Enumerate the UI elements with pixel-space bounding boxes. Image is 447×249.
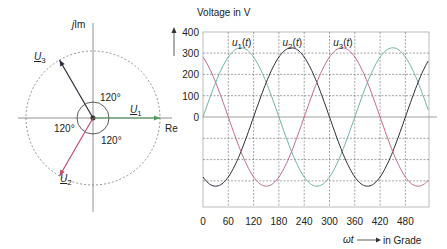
series-label-u1t: u1(t) bbox=[232, 37, 251, 51]
x-axis-title: ωt bbox=[343, 234, 355, 245]
y-tick-label: 400 bbox=[182, 27, 199, 38]
phasor-label-u3: U3 bbox=[34, 51, 46, 65]
arrowhead-icon bbox=[154, 116, 160, 121]
phasor-label-u1: U1 bbox=[130, 104, 142, 118]
angle-label-bottom: 120° bbox=[101, 135, 122, 146]
y-axis-arrowhead bbox=[172, 27, 177, 33]
y-tick-label: 300 bbox=[182, 48, 199, 59]
x-tick-label: 420 bbox=[372, 216, 389, 227]
y-tick-label: 0 bbox=[193, 112, 199, 123]
phasor-diagram: U1U2U3 jIm Re 120° 120° 120° bbox=[18, 19, 178, 212]
y-tick-label: 100 bbox=[182, 91, 199, 102]
x-axis-unit: in Grade bbox=[383, 235, 422, 246]
x-tick-label: 60 bbox=[223, 216, 235, 227]
series-label-u3t: u3(t) bbox=[333, 37, 352, 51]
phasor-label-u2: U2 bbox=[60, 173, 72, 187]
imag-axis-label: jIm bbox=[70, 19, 85, 30]
series-label-u2t: u2(t) bbox=[283, 37, 302, 51]
x-tick-label: 300 bbox=[321, 216, 338, 227]
x-tick-label: 180 bbox=[271, 216, 288, 227]
x-tick-label: 0 bbox=[200, 216, 206, 227]
phasor-u3 bbox=[60, 60, 94, 118]
angle-label-top: 120° bbox=[100, 92, 121, 103]
y-axis-title: Voltage in V bbox=[197, 7, 251, 18]
real-axis-label: Re bbox=[165, 123, 178, 134]
voltage-chart: Voltage in V 400300200100006012018024030… bbox=[172, 7, 438, 246]
x-tick-label: 120 bbox=[245, 216, 262, 227]
x-tick-label: 240 bbox=[296, 216, 313, 227]
figure: U1U2U3 jIm Re 120° 120° 120° Voltage in … bbox=[0, 0, 447, 249]
omega-t-label: ωt bbox=[343, 234, 355, 245]
x-tick-label: 360 bbox=[346, 216, 363, 227]
x-tick-label: 480 bbox=[397, 216, 414, 227]
angle-label-left: 120° bbox=[54, 123, 75, 134]
y-tick-label: 200 bbox=[182, 69, 199, 80]
x-axis-arrowhead bbox=[376, 238, 381, 243]
